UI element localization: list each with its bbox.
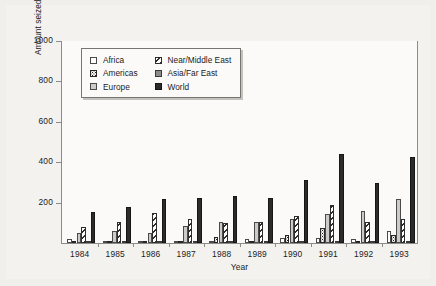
bar-near-middle-east-1992 xyxy=(365,222,369,243)
bar-world-1989 xyxy=(268,198,272,243)
legend-item-near-middle-east[interactable]: Near/Middle East xyxy=(155,56,232,64)
bar-near-middle-east-1993 xyxy=(401,219,405,243)
bar-europe-1991 xyxy=(325,214,329,243)
x-tick-mark xyxy=(382,243,383,247)
legend-label: Africa xyxy=(103,56,124,64)
legend-item-americas[interactable]: Americas xyxy=(90,69,138,77)
x-axis-label-1993: 1993 xyxy=(390,249,409,259)
bar-africa-1987 xyxy=(174,241,178,243)
bar-asia-far-east-1992 xyxy=(370,241,374,243)
bar-americas-1987 xyxy=(178,241,182,243)
bar-asia-far-east-1990 xyxy=(299,241,303,243)
bar-europe-1990 xyxy=(290,219,294,243)
bar-europe-1988 xyxy=(219,222,223,243)
legend-swatch-asia-far-east-icon xyxy=(155,70,162,77)
bar-asia-far-east-1987 xyxy=(193,241,197,243)
bar-world-1988 xyxy=(233,196,237,243)
plot-frame: Amount seized (tonnes) 1000 800 600 400 … xyxy=(61,41,418,244)
legend-swatch-near-middle-east-icon xyxy=(155,57,162,64)
bar-africa-1990 xyxy=(280,238,284,243)
bar-europe-1987 xyxy=(183,226,187,243)
bar-asia-far-east-1989 xyxy=(264,241,268,243)
bar-africa-1984 xyxy=(67,239,71,243)
bar-africa-1991 xyxy=(316,238,320,243)
x-axis-title: Year xyxy=(62,262,417,272)
x-tick-mark xyxy=(275,243,276,247)
bar-near-middle-east-1990 xyxy=(294,216,298,243)
x-tick-mark xyxy=(240,243,241,247)
x-axis-label-1988: 1988 xyxy=(212,249,231,259)
bar-near-middle-east-1987 xyxy=(188,219,192,243)
bar-americas-1985 xyxy=(107,241,111,243)
x-tick-mark xyxy=(98,243,99,247)
bar-world-1984 xyxy=(91,212,95,243)
bar-europe-1992 xyxy=(361,211,365,243)
bar-africa-1988 xyxy=(209,241,213,243)
y-tick-label: 800 xyxy=(38,75,53,85)
bar-asia-far-east-1984 xyxy=(86,241,90,243)
bar-americas-1991 xyxy=(320,228,324,243)
bar-americas-1993 xyxy=(391,235,395,243)
y-tick-label: 1000 xyxy=(34,35,53,45)
legend-item-africa[interactable]: Africa xyxy=(90,56,138,64)
bar-asia-far-east-1985 xyxy=(122,241,126,243)
bar-africa-1986 xyxy=(138,241,142,243)
bar-world-1992 xyxy=(375,183,379,243)
bar-asia-far-east-1991 xyxy=(335,241,339,243)
bar-near-middle-east-1988 xyxy=(223,223,227,243)
figure-container: Amount seized (tonnes) 1000 800 600 400 … xyxy=(0,0,436,286)
x-tick-mark xyxy=(169,243,170,247)
legend-label: Asia/Far East xyxy=(168,69,218,77)
legend-item-europe[interactable]: Europe xyxy=(90,83,138,91)
bar-world-1986 xyxy=(162,199,166,243)
bar-world-1993 xyxy=(410,157,414,243)
y-tick-label: 200 xyxy=(38,197,53,207)
legend-label: Near/Middle East xyxy=(168,56,232,64)
x-axis-label-1989: 1989 xyxy=(248,249,267,259)
legend-label: Europe xyxy=(103,83,130,91)
x-axis-label-1991: 1991 xyxy=(319,249,338,259)
y-axis-title: Amount seized (tonnes) xyxy=(34,0,43,55)
bar-europe-1984 xyxy=(77,233,81,244)
bar-americas-1986 xyxy=(143,241,147,243)
bar-africa-1989 xyxy=(245,239,249,243)
legend-item-asia-far-east[interactable]: Asia/Far East xyxy=(155,69,232,77)
bar-near-middle-east-1991 xyxy=(330,205,334,243)
x-axis-label-1987: 1987 xyxy=(177,249,196,259)
legend-swatch-world-icon xyxy=(155,83,162,90)
bar-europe-1986 xyxy=(148,233,152,244)
bar-world-1990 xyxy=(304,180,308,243)
bar-near-middle-east-1986 xyxy=(152,213,156,243)
chart-legend: Africa Near/Middle East Americas Asia/Fa… xyxy=(81,48,241,98)
bar-world-1987 xyxy=(197,198,201,243)
bar-near-middle-east-1985 xyxy=(117,222,121,243)
x-axis-label-1990: 1990 xyxy=(283,249,302,259)
legend-swatch-americas-icon xyxy=(90,70,97,77)
x-tick-mark xyxy=(204,243,205,247)
bar-americas-1992 xyxy=(356,241,360,243)
bar-asia-far-east-1988 xyxy=(228,241,232,243)
bar-africa-1992 xyxy=(351,239,355,243)
y-tick-label: 400 xyxy=(38,156,53,166)
bar-americas-1984 xyxy=(72,241,76,243)
legend-swatch-africa-icon xyxy=(90,57,97,64)
legend-swatch-europe-icon xyxy=(90,83,97,90)
bar-near-middle-east-1989 xyxy=(259,222,263,243)
bar-americas-1988 xyxy=(214,237,218,243)
x-tick-mark xyxy=(311,243,312,247)
bar-world-1991 xyxy=(339,154,343,243)
bar-americas-1989 xyxy=(249,241,253,243)
bar-europe-1989 xyxy=(254,222,258,243)
bar-asia-far-east-1993 xyxy=(406,241,410,243)
bar-near-middle-east-1984 xyxy=(81,227,85,243)
bar-world-1985 xyxy=(126,207,130,243)
legend-label: Americas xyxy=(103,69,138,77)
y-tick-label: 600 xyxy=(38,116,53,126)
bar-europe-1985 xyxy=(112,231,116,243)
x-axis-label-1985: 1985 xyxy=(106,249,125,259)
x-axis-label-1992: 1992 xyxy=(354,249,373,259)
x-tick-mark xyxy=(346,243,347,247)
bar-africa-1985 xyxy=(103,241,107,243)
legend-item-world[interactable]: World xyxy=(155,83,232,91)
x-axis-label-1984: 1984 xyxy=(70,249,89,259)
